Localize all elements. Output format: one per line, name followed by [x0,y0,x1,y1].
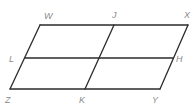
segment-jk [85,25,114,89]
vertex-label-x: X [183,10,191,20]
segment-zw [10,25,40,89]
vertex-label-k: K [79,95,86,105]
vertex-label-j: J [111,10,117,20]
vertex-label-z: Z [4,95,11,105]
segments-group [10,25,188,89]
vertex-label-h: H [176,54,183,64]
parallelogram-diagram: WJXLHZKY [0,0,194,112]
vertex-label-y: Y [152,95,159,105]
vertex-label-l: L [9,54,14,64]
vertex-label-w: W [44,11,54,21]
segment-xy [160,25,188,89]
